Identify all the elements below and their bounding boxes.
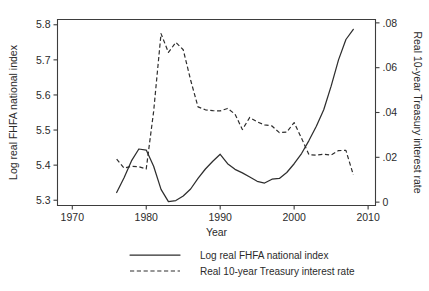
y-axis-tick-label: 5.6: [36, 89, 51, 101]
y2-axis-tick-label: .06: [383, 61, 398, 73]
y2-axis-tick-label: .04: [383, 106, 398, 118]
legend-label-2: Real 10-year Treasury interest rate: [200, 266, 355, 277]
chart-canvas: 5.35.45.55.65.75.80.02.04.06.08197019801…: [0, 0, 429, 291]
axis-labels-group: YearLog real FHFA national indexReal 10-…: [7, 31, 424, 237]
y-axis-tick-label: 5.3: [36, 194, 51, 206]
x-axis-tick-label: 1980: [135, 211, 159, 223]
chart-legend: Log real FHFA national indexReal 10-year…: [130, 250, 355, 277]
y2-axis-tick-label: .08: [383, 17, 398, 29]
x-axis-tick-label: 1990: [209, 211, 233, 223]
x-axis-title: Year: [206, 226, 228, 238]
y-axis-tick-label: 5.5: [36, 124, 51, 136]
series-line-1: [117, 29, 354, 201]
chart-figure: 5.35.45.55.65.75.80.02.04.06.08197019801…: [0, 0, 429, 291]
y-axis-tick-label: 5.7: [36, 54, 51, 66]
x-axis-tick-label: 2010: [356, 211, 380, 223]
y-axis-tick-label: 5.4: [36, 159, 51, 171]
y-axis-title: Log real FHFA national index: [7, 44, 19, 180]
series-line-2: [117, 34, 354, 175]
x-axis-tick-label: 1970: [61, 211, 85, 223]
y2-axis-tick-label: .02: [383, 151, 398, 163]
y2-axis-title: Real 10-year Treasury interest rate: [412, 31, 424, 193]
legend-label-1: Log real FHFA national index: [200, 250, 328, 261]
series-group: [117, 29, 354, 201]
plot-frame: [58, 20, 376, 206]
y2-axis-tick-label: 0: [383, 196, 389, 208]
x-axis-tick-label: 2000: [282, 211, 306, 223]
y-axis-tick-label: 5.8: [36, 18, 51, 30]
